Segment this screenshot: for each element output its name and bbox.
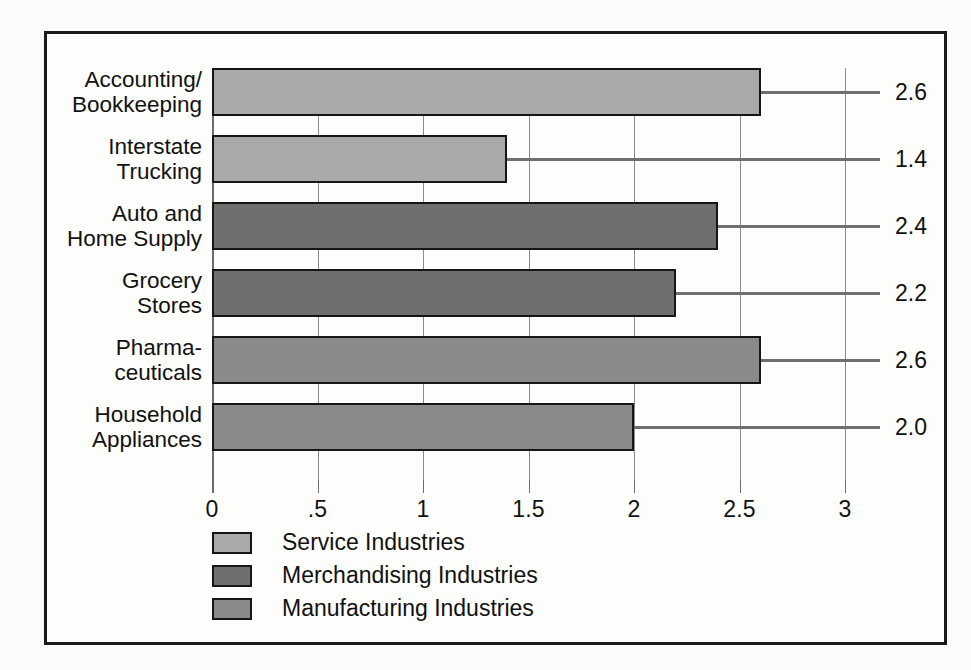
bar (212, 68, 761, 116)
x-tick (318, 480, 319, 493)
bar-value-label: 2.6 (895, 347, 927, 374)
bar (212, 269, 676, 317)
value-leader-line (761, 91, 880, 94)
value-leader-line (718, 225, 880, 228)
bar-row: 2.6 (212, 336, 971, 384)
x-tick (845, 480, 846, 493)
bar (212, 135, 507, 183)
bar-row: 2.6 (212, 68, 971, 116)
legend-swatch (212, 598, 252, 620)
bar-value-label: 1.4 (895, 146, 927, 173)
chart-frame: Accounting/ BookkeepingInterstate Trucki… (44, 31, 947, 645)
legend-item: Merchandising Industries (212, 559, 732, 592)
bar-row: 2.4 (212, 202, 971, 250)
bar (212, 202, 718, 250)
value-leader-line (676, 292, 880, 295)
legend-item: Service Industries (212, 526, 732, 559)
bar (212, 336, 761, 384)
bar-value-label: 2.6 (895, 79, 927, 106)
legend-swatch (212, 532, 252, 554)
bar-value-label: 2.2 (895, 280, 927, 307)
x-tick (634, 480, 635, 493)
legend-label: Merchandising Industries (282, 562, 538, 589)
category-label: Accounting/ Bookkeeping (72, 67, 202, 117)
x-tick-label: 2 (628, 496, 641, 523)
legend-label: Manufacturing Industries (282, 595, 534, 622)
plot-area: 2.61.42.42.22.62.0 (212, 68, 845, 480)
bar-value-label: 2.4 (895, 213, 927, 240)
x-tick-label: 3 (839, 496, 852, 523)
legend-label: Service Industries (282, 529, 465, 556)
category-label: Auto and Home Supply (67, 201, 202, 251)
category-axis-labels: Accounting/ BookkeepingInterstate Trucki… (47, 68, 202, 480)
category-label: Pharma- ceuticals (114, 335, 202, 385)
bar-row: 1.4 (212, 135, 971, 183)
x-tick-label: 2.5 (723, 496, 756, 523)
x-tick-label: 1.5 (512, 496, 545, 523)
category-label: Interstate Trucking (108, 134, 202, 184)
value-leader-line (634, 426, 880, 429)
legend-swatch (212, 565, 252, 587)
bar (212, 403, 634, 451)
x-tick-label: .5 (308, 496, 328, 523)
bar-row: 2.0 (212, 403, 971, 451)
category-label: Grocery Stores (122, 268, 202, 318)
legend-item: Manufacturing Industries (212, 592, 732, 625)
x-tick (212, 480, 214, 493)
value-leader-line (507, 158, 880, 161)
x-tick (529, 480, 530, 493)
bar-row: 2.2 (212, 269, 971, 317)
x-tick-label: 0 (206, 496, 219, 523)
x-tick (423, 480, 424, 493)
bar-value-label: 2.0 (895, 414, 927, 441)
x-tick-label: 1 (417, 496, 430, 523)
category-label: Household Appliances (92, 402, 202, 452)
x-tick (740, 480, 741, 493)
chart-legend: Service IndustriesMerchandising Industri… (212, 526, 732, 625)
value-leader-line (761, 359, 880, 362)
